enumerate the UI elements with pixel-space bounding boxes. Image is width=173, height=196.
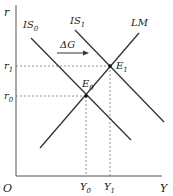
- r0-label: r0: [4, 90, 14, 104]
- is0-label: IS0: [22, 19, 39, 33]
- x-axis-label: Y: [160, 182, 169, 195]
- e1-label: E1: [115, 60, 128, 74]
- is-lm-diagram: r Y O IS0 IS1 LM ΔG E0 E1 r1 r0 Y0 Y1: [0, 0, 173, 196]
- e1-point: [108, 64, 112, 68]
- lm-label: LM: [130, 17, 149, 28]
- delta-g-label: ΔG: [59, 39, 75, 50]
- e0-label: E0: [81, 78, 94, 92]
- r1-label: r1: [4, 60, 13, 74]
- e0-point: [84, 94, 88, 98]
- y-axis-label: r: [4, 6, 10, 19]
- y1-label: Y1: [104, 181, 115, 195]
- arrowhead-icon: [83, 51, 89, 56]
- origin-label: O: [3, 182, 12, 195]
- y0-label: Y0: [80, 181, 92, 195]
- is1-curve: [75, 30, 164, 122]
- is1-label: IS1: [69, 15, 85, 29]
